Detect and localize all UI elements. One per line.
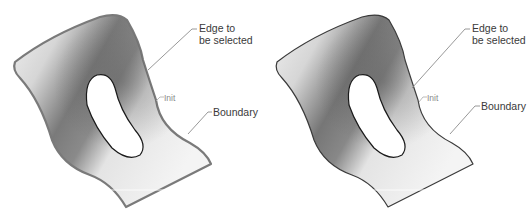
leader-edge [412,29,470,88]
label-edge-to-be-selected: Edge to be selected [199,22,253,46]
label-boundary: Boundary [213,106,258,118]
surface-figure-right: Edge to be selected Init Boundary [262,0,527,222]
leader-init [419,97,427,102]
surface-figure-left: Edge to be selected Init Boundary [0,0,265,222]
label-edge-line2: be selected [472,34,526,46]
leader-boundary [188,112,212,134]
label-edge-line1: Edge to [199,22,253,34]
leader-init [156,97,164,101]
label-init: Init [164,92,175,104]
label-edge-line2: be selected [199,34,253,46]
leader-edge [148,29,197,70]
label-edge-to-be-selected: Edge to be selected [472,22,526,46]
label-boundary: Boundary [481,100,526,112]
leader-boundary [450,106,480,134]
label-init: Init [427,92,438,104]
label-edge-line1: Edge to [472,22,526,34]
